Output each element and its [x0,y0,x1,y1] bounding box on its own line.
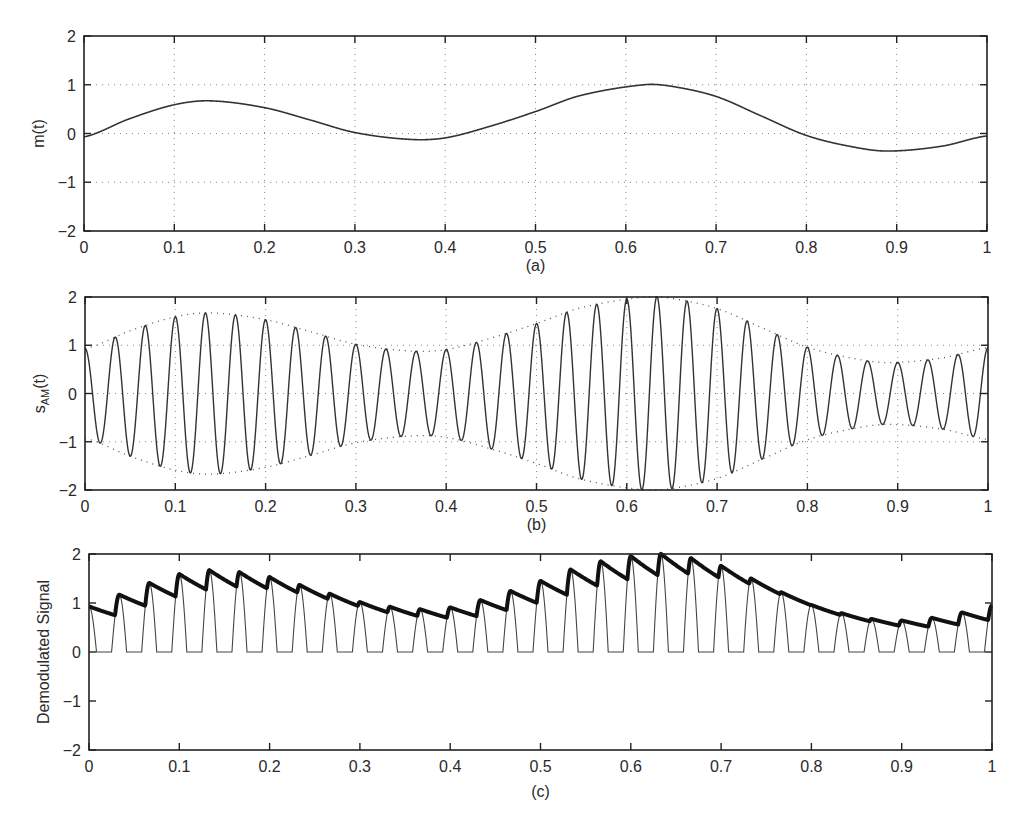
x-tick-label: 0.7 [705,239,727,256]
panel-a-tick-labels: 00.10.20.30.40.50.60.70.80.91210−1−2 [58,28,992,256]
x-tick-label: 0.3 [345,498,367,515]
x-tick-label: 0.3 [349,758,371,775]
panel-b-am-signal: 00.10.20.30.40.50.60.70.80.91210−1−2 sAM… [31,289,993,533]
x-tick-label: 0.5 [525,498,547,515]
x-tick-label: 0.2 [258,758,280,775]
y-tick-label: −1 [59,434,77,451]
panel-b-caption: (b) [527,516,547,533]
y-tick-label: −2 [59,482,77,499]
y-tick-label: −2 [58,223,76,240]
y-tick-label: 0 [67,126,76,143]
ylabel-main: s [31,405,48,413]
panel-c-tick-labels: 00.10.20.30.40.50.60.70.80.91210−1−2 [63,546,997,775]
x-tick-label: 0.8 [795,239,817,256]
panel-a-y-axis-label: m(t) [30,119,47,147]
y-tick-label: 2 [72,546,81,563]
x-tick-label: 0.3 [344,239,366,256]
x-tick-label: 0.4 [434,239,456,256]
x-tick-label: 0.6 [620,758,642,775]
x-tick-label: 0.5 [529,758,551,775]
x-tick-label: 0.6 [615,239,637,256]
x-tick-label: 0.8 [796,498,818,515]
x-tick-label: 0.2 [254,498,276,515]
x-tick-label: 0.8 [800,758,822,775]
y-tick-label: 2 [67,28,76,45]
x-tick-label: 0.1 [164,498,186,515]
x-tick-label: 0.4 [439,758,461,775]
panel-a-caption: (a) [526,257,546,274]
panel-b-y-axis-label: sAM(t) [31,374,51,414]
panel-c-demodulated-signal: 00.10.20.30.40.50.60.70.80.91210−1−2 Dem… [35,546,997,800]
x-tick-label: 0.2 [253,239,275,256]
y-tick-label: 2 [68,289,77,306]
ylabel-subscript: AM [39,389,51,406]
panel-a-curves [84,84,987,151]
x-tick-label: 1 [983,239,992,256]
y-tick-label: 1 [68,337,77,354]
x-tick-label: 0.4 [435,498,457,515]
y-tick-label: 1 [72,595,81,612]
x-tick-label: 0.5 [524,239,546,256]
y-tick-label: 1 [67,77,76,94]
x-tick-label: 0.7 [706,498,728,515]
x-tick-label: 0.9 [887,498,909,515]
figure: 00.10.20.30.40.50.60.70.80.91210−1−2 m(t… [0,0,1022,834]
y-tick-label: 0 [68,386,77,403]
x-tick-label: 0.9 [891,758,913,775]
y-tick-label: −1 [58,174,76,191]
panel-c-curves [89,554,992,652]
panel-a-grid [84,36,987,231]
y-tick-label: −2 [63,742,81,759]
x-tick-label: 0.9 [886,239,908,256]
x-tick-label: 1 [988,758,997,775]
x-tick-label: 0.1 [168,758,190,775]
x-tick-label: 1 [984,498,993,515]
x-tick-label: 0.7 [710,758,732,775]
x-tick-label: 0.1 [163,239,185,256]
x-tick-label: 0 [81,498,90,515]
y-tick-label: −1 [63,693,81,710]
panel-c-y-axis-label: Demodulated Signal [35,580,52,724]
x-tick-label: 0 [80,239,89,256]
y-tick-label: 0 [72,644,81,661]
panel-c-caption: (c) [531,783,550,800]
x-tick-label: 0.6 [616,498,638,515]
panel-b-tick-labels: 00.10.20.30.40.50.60.70.80.91210−1−2 [59,289,993,515]
panel-a-axes [84,36,987,231]
x-tick-label: 0 [85,758,94,775]
panel-a-message-signal: 00.10.20.30.40.50.60.70.80.91210−1−2 m(t… [30,28,992,274]
ylabel-tail: (t) [31,374,48,389]
panel-b-grid [85,297,988,490]
